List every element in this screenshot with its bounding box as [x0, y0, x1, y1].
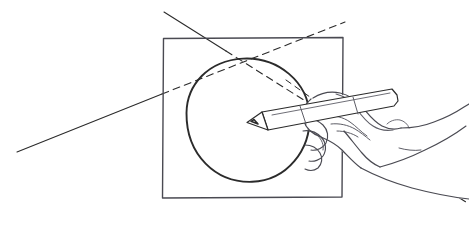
drawing-canvas — [0, 0, 469, 225]
line-drawing-figure — [0, 0, 469, 225]
